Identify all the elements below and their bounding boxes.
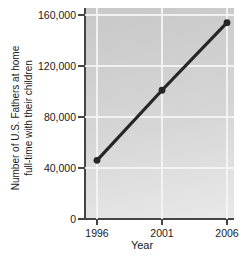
y-axis-tick bbox=[78, 14, 85, 16]
x-axis-tick bbox=[161, 219, 163, 225]
data-point bbox=[94, 157, 101, 164]
y-axis-title: Number of U.S. Fathers at home full-time… bbox=[9, 18, 35, 218]
data-point bbox=[159, 87, 166, 94]
x-axis-tick bbox=[96, 219, 98, 225]
data-line-svg bbox=[85, 8, 234, 219]
y-axis-tick bbox=[78, 167, 85, 169]
x-tick-label: 2006 bbox=[205, 227, 245, 240]
line-chart-figure: 040,00080,000120,000160,000199620012006 … bbox=[0, 0, 245, 263]
y-axis-tick bbox=[78, 116, 85, 118]
data-point bbox=[224, 19, 231, 26]
y-axis-title-line2: full-time with their children bbox=[23, 60, 34, 176]
y-axis-tick bbox=[78, 65, 85, 67]
x-axis-tick bbox=[226, 219, 228, 225]
x-axis-title: Year bbox=[77, 239, 207, 251]
y-axis-tick bbox=[78, 218, 85, 220]
y-axis-title-line1: Number of U.S. Fathers at home bbox=[10, 46, 21, 191]
